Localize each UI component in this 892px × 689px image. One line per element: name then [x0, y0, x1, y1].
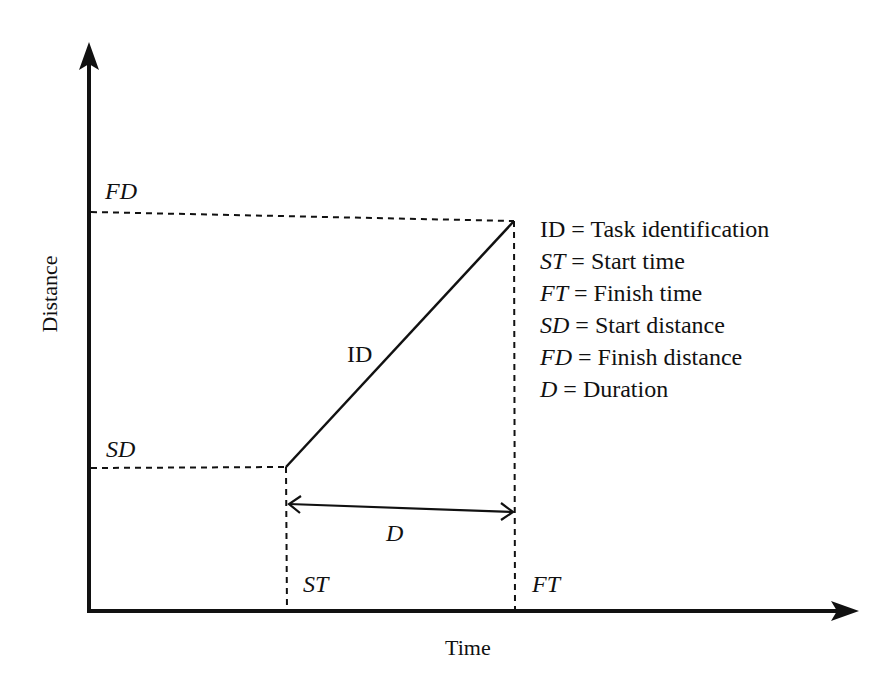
legend: ID = Task identification ST = Start time…: [539, 216, 769, 402]
fd-label: FD: [104, 178, 137, 204]
legend-item: SD = Start distance: [540, 312, 725, 338]
time-distance-diagram: FD SD ST FT D ID Time Distance ID = Task…: [0, 0, 892, 689]
duration-arrow: [289, 504, 513, 512]
duration-label: D: [385, 520, 403, 546]
fd-guide-line: [91, 212, 514, 221]
task-line-label: ID: [347, 341, 372, 367]
legend-item: D = Duration: [539, 376, 668, 402]
legend-item: ST = Start time: [540, 248, 685, 274]
ft-label: FT: [531, 571, 562, 597]
st-guide-line: [286, 467, 287, 611]
sd-guide-line: [91, 467, 286, 468]
task-line: [286, 221, 514, 467]
st-label: ST: [303, 571, 330, 597]
y-axis-title: Distance: [37, 256, 62, 333]
ft-guide-line: [514, 221, 515, 611]
sd-label: SD: [106, 436, 135, 462]
x-axis-title: Time: [445, 635, 491, 660]
legend-item: FT = Finish time: [539, 280, 702, 306]
legend-item: FD = Finish distance: [539, 344, 742, 370]
legend-item: ID = Task identification: [540, 216, 769, 242]
